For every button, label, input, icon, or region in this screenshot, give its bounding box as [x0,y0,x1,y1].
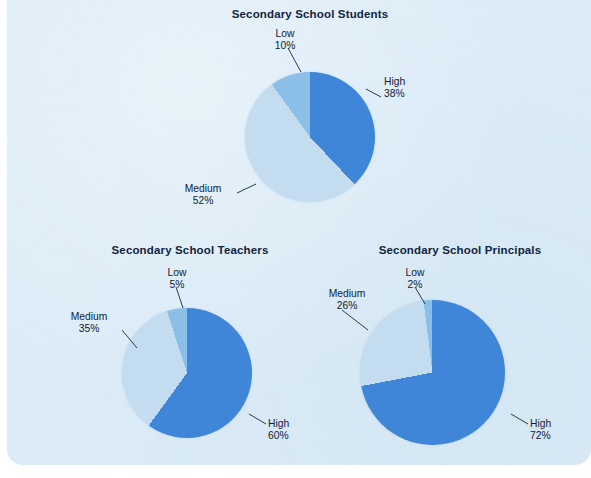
slice-label-students-high-name: High [384,76,405,87]
slice-label-principals-high: High 72% [530,418,584,443]
chart-title-principals: Secondary School Principals [350,244,570,256]
page-canvas: . . . . . Secondary School Students Low … [0,0,591,478]
pie-teachers [122,308,252,438]
slice-label-principals-medium-name: Medium [329,288,366,299]
pie-chart-principals: Secondary School Principals Low 2% Mediu… [320,238,591,478]
slice-label-teachers-low-name: Low [168,267,187,278]
slice-label-principals-low: Low 2% [390,267,440,292]
slice-label-principals-low-value: 2% [390,279,440,291]
pie-principals [360,300,505,445]
leader-high [511,414,528,424]
slice-label-teachers-medium-name: Medium [71,311,108,322]
slice-label-teachers-medium-value: 35% [58,323,120,335]
slice-label-principals-medium-value: 26% [316,300,378,312]
slice-label-principals-medium: Medium 26% [316,288,378,313]
slice-label-principals-low-name: Low [406,267,425,278]
slice-label-teachers-high: High 60% [268,418,324,443]
pie-chart-teachers: Secondary School Teachers Low 5% Medium … [0,238,320,478]
chart-title-teachers: Secondary School Teachers [75,244,305,256]
slice-label-students-low-name: Low [276,28,295,39]
slice-label-principals-high-value: 72% [530,430,584,442]
pie-chart-students: Secondary School Students Low 10% High 3… [0,0,591,230]
slice-label-students-medium-name: Medium [185,183,222,194]
slice-label-students-low-value: 10% [258,40,312,52]
slice-label-students-high: High 38% [384,76,444,101]
slice-label-teachers-high-value: 60% [268,430,324,442]
leader-high [366,89,381,97]
slice-label-principals-high-name: High [530,418,551,429]
slice-label-students-high-value: 38% [384,88,444,100]
chart-title-students: Secondary School Students [195,8,425,20]
leader-high [249,414,266,424]
slice-label-students-low: Low 10% [258,28,312,53]
slice-label-teachers-low: Low 5% [150,267,204,292]
slice-label-teachers-low-value: 5% [150,279,204,291]
slice-label-teachers-high-name: High [268,418,289,429]
leader-medium [342,310,368,330]
leader-medium [237,184,256,193]
slice-label-students-medium-value: 52% [172,195,234,207]
slice-label-teachers-medium: Medium 35% [58,311,120,336]
pie-students [245,72,375,202]
slice-label-students-medium: Medium 52% [172,183,234,208]
